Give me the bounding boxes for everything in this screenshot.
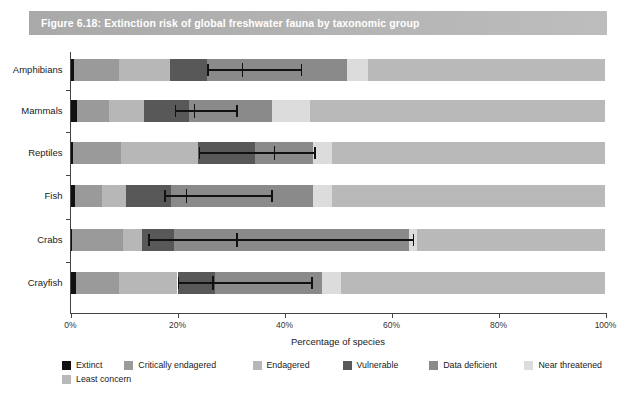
- figure-container: Figure 6.18: Extinction risk of global f…: [0, 0, 630, 400]
- error-bar-best-estimate: [236, 233, 238, 247]
- bar-segment: [368, 59, 606, 81]
- bar-segment: [77, 100, 109, 122]
- error-bar-cap-low: [199, 147, 201, 159]
- x-axis-tick-label: 60%: [383, 320, 400, 330]
- bar-segment: [310, 100, 606, 122]
- error-bar-best-estimate: [186, 189, 188, 203]
- legend-swatch-icon: [253, 361, 262, 370]
- legend-item-label: Vulnerable: [357, 360, 399, 370]
- bar-segment: [272, 100, 309, 122]
- legend-item[interactable]: Vulnerable: [343, 358, 430, 372]
- y-axis-category-label: Mammals: [0, 106, 63, 116]
- error-bar-cap-high: [271, 190, 273, 202]
- x-axis-title: Percentage of species: [291, 336, 385, 347]
- bar-segment: [72, 229, 123, 251]
- error-bar-cap-low: [164, 190, 166, 202]
- x-axis-line: [70, 313, 607, 314]
- y-axis-tick: [66, 219, 70, 220]
- bar-segment: [73, 142, 121, 164]
- legend-row: Least concern: [62, 372, 602, 386]
- x-axis-tick: [71, 314, 72, 318]
- legend-item-label: Critically endagered: [138, 360, 216, 370]
- x-axis-tick-label: 80%: [490, 320, 507, 330]
- error-bar-cap-high: [301, 64, 303, 76]
- y-axis-category-label: Crabs: [0, 235, 63, 245]
- bar-segment: [332, 185, 606, 207]
- bar-segment: [74, 59, 119, 81]
- bar-segment: [102, 185, 126, 207]
- x-axis-tick: [606, 314, 607, 318]
- legend-item-label: Extinct: [76, 360, 102, 370]
- legend-row: ExtinctCritically endageredEndageredVuln…: [62, 358, 602, 372]
- y-axis-tick: [66, 262, 70, 263]
- legend-swatch-icon: [62, 361, 71, 370]
- error-bar-line: [207, 69, 301, 71]
- error-bar-line: [199, 152, 314, 154]
- chart-legend: ExtinctCritically endageredEndageredVuln…: [62, 358, 602, 386]
- chart-plot-area: AmphibiansMammalsReptilesFishCrabsCrayfi…: [0, 0, 630, 400]
- error-bar-line: [148, 239, 413, 241]
- bar-segment: [109, 100, 144, 122]
- x-axis-tick-label: 0%: [64, 320, 76, 330]
- error-bar-line: [178, 282, 312, 284]
- legend-item-label: Endagered: [267, 360, 310, 370]
- legend-swatch-icon: [62, 375, 71, 384]
- y-axis-category-label: Reptiles: [0, 148, 63, 158]
- error-bar-cap-low: [207, 64, 209, 76]
- bar-segment: [313, 142, 332, 164]
- bar-segment: [123, 229, 142, 251]
- error-bar-cap-low: [178, 277, 180, 289]
- legend-item-label: Data deficient: [443, 360, 497, 370]
- bar-segment: [119, 272, 178, 294]
- error-bar-line: [164, 195, 271, 197]
- y-axis-tick: [66, 132, 70, 133]
- stacked-bar-row: [71, 100, 606, 122]
- error-bar-cap-low: [175, 105, 177, 117]
- legend-item-label: Near threatened: [538, 360, 602, 370]
- legend-swatch-icon: [343, 361, 352, 370]
- bar-segment: [332, 142, 605, 164]
- bar-segment: [347, 59, 368, 81]
- legend-item[interactable]: Extinct: [62, 358, 124, 372]
- bar-segment: [76, 272, 119, 294]
- bar-segment: [170, 59, 207, 81]
- x-axis-tick: [392, 314, 393, 318]
- legend-item[interactable]: Near threatened: [524, 358, 602, 372]
- error-bar-best-estimate: [212, 276, 214, 290]
- x-axis-tick: [285, 314, 286, 318]
- x-axis-tick: [499, 314, 500, 318]
- error-bar-cap-high: [311, 277, 313, 289]
- legend-item[interactable]: Critically endagered: [124, 358, 252, 372]
- legend-swatch-icon: [429, 361, 438, 370]
- x-axis-tick: [178, 314, 179, 318]
- error-bar-cap-high: [236, 105, 238, 117]
- error-bar-best-estimate: [242, 63, 244, 77]
- legend-item[interactable]: Least concern: [62, 372, 131, 386]
- bar-segment: [313, 185, 332, 207]
- y-axis-tick: [66, 90, 70, 91]
- stacked-bar-row: [71, 59, 606, 81]
- x-axis-tick-label: 100%: [595, 320, 617, 330]
- error-bar-best-estimate: [274, 146, 276, 160]
- stacked-bar-row: [71, 142, 606, 164]
- bar-segment: [119, 59, 170, 81]
- bar-segment: [322, 272, 341, 294]
- bar-segment: [121, 142, 199, 164]
- error-bar-cap-low: [148, 234, 150, 246]
- legend-swatch-icon: [124, 361, 133, 370]
- bar-segment: [75, 185, 102, 207]
- bar-segment: [341, 272, 606, 294]
- error-bar-cap-high: [413, 234, 415, 246]
- error-bar-best-estimate: [194, 104, 196, 118]
- legend-swatch-icon: [524, 361, 533, 370]
- y-axis-category-label: Amphibians: [0, 65, 63, 75]
- error-bar-line: [175, 110, 237, 112]
- y-axis-category-label: Crayfish: [0, 278, 63, 288]
- y-axis-tick: [66, 175, 70, 176]
- legend-item[interactable]: Endagered: [253, 358, 343, 372]
- legend-item[interactable]: Data deficient: [429, 358, 524, 372]
- stacked-bar-row: [71, 272, 606, 294]
- legend-item-label: Least concern: [76, 374, 131, 384]
- error-bar-cap-high: [314, 147, 316, 159]
- x-axis-tick-label: 40%: [276, 320, 293, 330]
